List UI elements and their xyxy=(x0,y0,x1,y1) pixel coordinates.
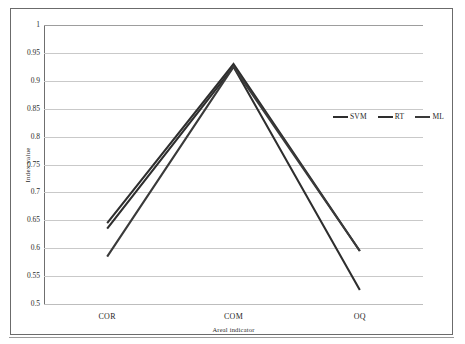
legend-swatch-icon xyxy=(415,116,430,118)
y-axis-tick-label: 0.85 xyxy=(10,105,40,113)
y-axis-tick-label: 0.8 xyxy=(10,133,40,141)
x-axis-tick-labels: CORCOMOQ xyxy=(44,312,423,326)
y-axis-tick-label: 0.7 xyxy=(10,189,40,197)
legend-swatch-icon xyxy=(333,116,348,118)
y-axis-tick-label: 0.5 xyxy=(10,300,40,308)
legend-item-rt[interactable]: RT xyxy=(378,113,405,121)
gridline xyxy=(44,304,423,305)
x-axis-tick-label: OQ xyxy=(354,312,366,321)
y-axis-tick-label: 0.75 xyxy=(10,161,40,169)
series-line-rt xyxy=(107,67,360,290)
chart-legend: SVMRTML xyxy=(333,113,444,121)
legend-label: SVM xyxy=(350,113,367,121)
y-axis-tick-label: 0.95 xyxy=(10,49,40,57)
legend-item-svm[interactable]: SVM xyxy=(333,113,367,121)
y-axis-tick-label: 0.65 xyxy=(10,217,40,225)
legend-label: RT xyxy=(395,113,405,121)
series-line-ml xyxy=(107,67,360,257)
y-axis-tick-labels: 10.950.90.850.80.750.70.650.60.550.5 xyxy=(11,25,40,304)
plot-area xyxy=(44,25,423,304)
x-axis-tick-label: COM xyxy=(224,312,243,321)
y-axis-tick-label: 0.6 xyxy=(10,244,40,252)
legend-label: ML xyxy=(432,113,444,121)
y-axis-tick-label: 0.9 xyxy=(10,77,40,85)
legend-swatch-icon xyxy=(378,116,393,118)
x-axis-tick-label: COR xyxy=(98,312,115,321)
figure-frame: Index value 10.950.90.850.80.750.70.650.… xyxy=(10,8,453,335)
y-axis-tick-label: 1 xyxy=(10,21,40,29)
y-axis-tick-label: 0.55 xyxy=(10,272,40,280)
x-axis-title: Areal indicator xyxy=(44,326,423,333)
series-lines xyxy=(44,25,423,304)
legend-item-ml[interactable]: ML xyxy=(415,113,444,121)
